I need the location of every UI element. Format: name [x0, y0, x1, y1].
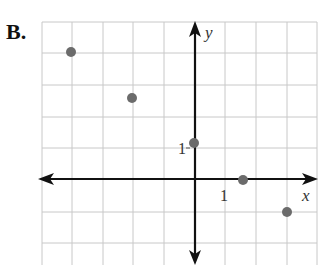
x-axis — [38, 173, 318, 185]
data-points — [66, 47, 292, 217]
data-point — [127, 93, 137, 103]
data-point — [66, 47, 76, 57]
data-point — [238, 175, 248, 185]
data-point — [282, 207, 292, 217]
data-point — [189, 138, 199, 148]
y-axis-label: y — [203, 23, 213, 42]
x-tick-label: 1 — [220, 187, 228, 204]
y-tick-label: 1 — [178, 140, 186, 157]
coordinate-plane: y x 1 1 — [0, 0, 327, 265]
x-axis-label: x — [301, 186, 310, 205]
